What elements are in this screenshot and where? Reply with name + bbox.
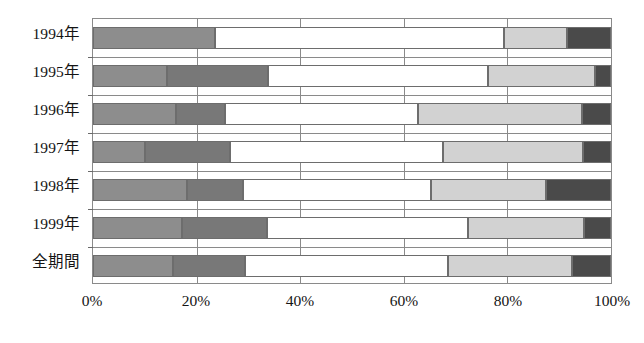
bar-segment-4 (431, 179, 547, 201)
category-label-1994: 1994年 (0, 26, 80, 42)
category-label-1997: 1997年 (0, 140, 80, 156)
bar-segment-4 (504, 27, 567, 49)
bar-segment-4 (448, 255, 572, 277)
bar-segment-3 (215, 27, 505, 49)
table-row (93, 103, 611, 125)
category-axis-labels: 1994年 1995年 1996年 1997年 1998年 1999年 全期間 (0, 18, 86, 284)
bar-segment-5 (582, 103, 611, 125)
bar-segment-1 (93, 179, 187, 201)
category-axis-tick (88, 95, 93, 96)
row-separator (93, 133, 611, 134)
bar-segment-4 (468, 217, 585, 239)
bar-segment-4 (488, 65, 596, 87)
category-label-all-period: 全期間 (0, 254, 80, 270)
x-tick-label-40: 40% (286, 292, 314, 310)
category-label-1996: 1996年 (0, 102, 80, 118)
value-axis-labels: 0% 20% 40% 60% 80% 100% (92, 292, 612, 318)
bar-segment-5 (595, 65, 611, 87)
bar-segment-4 (443, 141, 583, 163)
bar-segment-3 (225, 103, 418, 125)
bar-segment-3 (230, 141, 442, 163)
bar-segment-1 (93, 27, 215, 49)
table-row (93, 179, 611, 201)
row-separator (93, 95, 611, 96)
bar-segment-2 (167, 65, 268, 87)
bar-segment-2 (173, 255, 246, 277)
table-row (93, 65, 611, 87)
x-tick-label-20: 20% (182, 292, 210, 310)
bar-segment-3 (243, 179, 431, 201)
bar-segment-4 (418, 103, 582, 125)
bar-segment-1 (93, 141, 145, 163)
bar-segment-5 (567, 27, 611, 49)
bar-segment-5 (546, 179, 611, 201)
stacked-bar-chart: 1994年 1995年 1996年 1997年 1998年 1999年 全期間 … (0, 0, 644, 343)
x-tick-label-80: 80% (494, 292, 522, 310)
bar-segment-2 (182, 217, 267, 239)
plot-area (92, 18, 612, 284)
bar-segment-5 (584, 217, 611, 239)
table-row (93, 255, 611, 277)
row-separator (93, 57, 611, 58)
bar-segment-1 (93, 65, 167, 87)
bar-segment-2 (176, 103, 225, 125)
bar-segment-1 (93, 103, 176, 125)
x-tick-label-100: 100% (594, 292, 630, 310)
x-tick-label-0: 0% (82, 292, 103, 310)
bar-segment-2 (145, 141, 230, 163)
table-row (93, 217, 611, 239)
category-axis-tick (88, 247, 93, 248)
bar-segment-2 (187, 179, 243, 201)
category-axis-tick (88, 171, 93, 172)
row-separator (93, 247, 611, 248)
bar-segment-3 (268, 65, 488, 87)
bar-segment-1 (93, 255, 173, 277)
bar-segment-5 (583, 141, 611, 163)
x-tick-label-60: 60% (390, 292, 418, 310)
bar-segment-5 (572, 255, 611, 277)
category-axis-tick (88, 133, 93, 134)
category-label-1999: 1999年 (0, 216, 80, 232)
row-separator (93, 171, 611, 172)
table-row (93, 27, 611, 49)
category-label-1995: 1995年 (0, 64, 80, 80)
table-row (93, 141, 611, 163)
bar-segment-3 (245, 255, 448, 277)
bar-segment-3 (267, 217, 467, 239)
category-axis-tick (88, 209, 93, 210)
bar-segment-1 (93, 217, 182, 239)
row-separator (93, 209, 611, 210)
category-axis-tick (88, 57, 93, 58)
category-label-1998: 1998年 (0, 178, 80, 194)
